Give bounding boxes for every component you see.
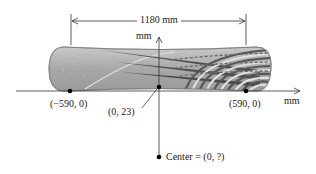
- point-circle-center: [157, 155, 162, 160]
- dimension-label: 1180 mm: [137, 15, 181, 25]
- point-right-endpoint: [244, 89, 249, 94]
- leader-line-top-midpoint: [142, 89, 157, 108]
- top-midpoint-label: (0, 23): [108, 107, 135, 117]
- circle-center-label: Center = (0, ?): [166, 152, 224, 162]
- x-axis-label: mm: [284, 96, 300, 106]
- point-top-midpoint: [157, 85, 162, 90]
- snowboard-illustration: [49, 47, 272, 92]
- y-axis-label: mm: [136, 31, 152, 41]
- right-endpoint-label: (590, 0): [229, 99, 261, 109]
- point-left-endpoint: [68, 89, 73, 94]
- snowboard-diagram: [0, 0, 316, 174]
- left-endpoint-label: (−590, 0): [50, 99, 87, 109]
